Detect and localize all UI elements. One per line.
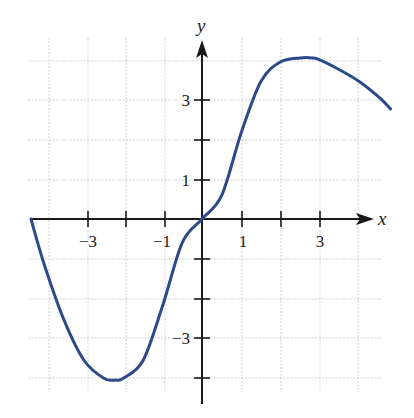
x-axis-label: x (377, 208, 387, 229)
y-tick-label: −3 (172, 329, 190, 348)
function-graph: −3 −1 1 3 3 1 −3 x y (0, 0, 414, 418)
y-axis-label: y (195, 15, 206, 36)
x-tick-label: 3 (316, 232, 325, 251)
y-tick-label: 3 (182, 91, 191, 110)
x-tick-label: −3 (79, 232, 97, 251)
y-tick-label: 1 (182, 171, 191, 190)
x-tick-label: −1 (153, 232, 171, 251)
x-tick-label: 1 (239, 232, 248, 251)
